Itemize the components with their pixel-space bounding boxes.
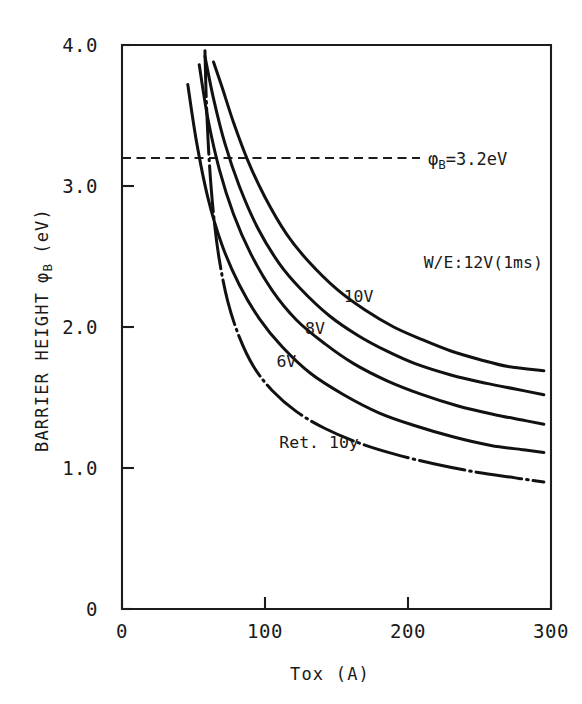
threshold-annotation-label: φB=3.2eV [428, 149, 507, 172]
x-tick-label-100: 100 [247, 620, 283, 642]
y-tick-label-1: 1.0 [62, 457, 98, 479]
series-label-1: 10V [344, 287, 374, 306]
y-axis-title-main: BARRIER HEIGHT [32, 292, 52, 452]
y-axis-title: BARRIER HEIGHTφB(eV) [32, 208, 55, 452]
y-axis-title-subscript: B [40, 263, 55, 272]
y-tick-label-0: 0 [86, 598, 98, 620]
y-tick-label-2: 2.0 [62, 316, 98, 338]
plot-border [122, 45, 551, 609]
x-tick-label-300: 300 [533, 620, 569, 642]
y-axis-ticks [122, 45, 134, 609]
x-tick-label-200: 200 [390, 620, 426, 642]
curve-series-1 [205, 56, 544, 394]
threshold-subscript: B [438, 157, 446, 172]
x-axis-ticks [122, 597, 551, 609]
svg-text:BARRIER HEIGHTφB(eV): BARRIER HEIGHTφB(eV) [32, 208, 55, 452]
y-tick-label-3: 3.0 [62, 175, 98, 197]
y-axis-title-symbol: φ [32, 271, 52, 282]
y-tick-label-4: 4.0 [62, 34, 98, 56]
series-label-0: W/E:12V(1ms) [424, 253, 543, 272]
x-axis-title: Tox (A) [290, 664, 370, 684]
y-axis-title-unit: (eV) [32, 208, 52, 254]
x-tick-label-0: 0 [116, 620, 128, 642]
barrier-height-vs-tox-chart: 4.0 3.0 2.0 1.0 0 0 100 200 300 Tox (A) … [0, 0, 582, 704]
y-tick-labels: 4.0 3.0 2.0 1.0 0 [62, 34, 98, 620]
series-label-4: Ret. 10y [279, 433, 359, 452]
threshold-symbol: φ [428, 149, 438, 169]
series-label-3: 6V [276, 352, 296, 371]
x-tick-labels: 0 100 200 300 [116, 620, 569, 642]
series-label-2: 8V [305, 319, 325, 338]
plot-frame [122, 45, 551, 609]
threshold-value: =3.2eV [446, 149, 507, 169]
curve-series-2 [199, 65, 544, 425]
